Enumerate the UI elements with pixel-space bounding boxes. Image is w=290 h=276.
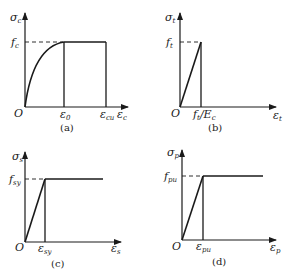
ft-over-ec-label: ft/Ec	[192, 108, 216, 122]
linear-rise	[180, 42, 201, 107]
y-axis-label: σt	[165, 11, 176, 25]
y-axis-label: σp	[167, 146, 180, 160]
fc-label: fc	[10, 36, 19, 50]
panel-c-steel-bar: σs fsy O εsy εs (c)	[8, 150, 121, 269]
origin-label: O	[14, 107, 23, 120]
x-axis-label: εp	[270, 241, 281, 255]
origin-label: O	[15, 241, 24, 254]
linear-rise	[25, 179, 45, 242]
fsy-label: fsy	[8, 173, 22, 187]
epscu-label: εcu	[100, 108, 115, 122]
caption-b: (b)	[208, 122, 222, 133]
x-axis-label: εt	[273, 109, 282, 123]
ft-label: ft	[165, 36, 173, 50]
eps0-label: ε0	[60, 108, 71, 122]
panel-b-concrete-tension: σt ft O ft/Ec εt (b)	[165, 11, 282, 133]
linear-rise	[182, 176, 203, 240]
stress-strain-diagrams: σc fc O ε0 εcu εc (a) σt ft O ft/Ec εt (…	[0, 0, 290, 276]
fpu-label: fpu	[163, 170, 178, 184]
caption-d: (d)	[212, 256, 226, 267]
origin-label: O	[172, 240, 181, 253]
parabolic-curve	[25, 42, 64, 107]
panel-a-concrete-compression: σc fc O ε0 εcu εc (a)	[10, 11, 128, 133]
caption-c: (c)	[51, 258, 65, 269]
caption-a: (a)	[60, 122, 74, 133]
y-axis-label: σc	[10, 11, 22, 25]
origin-label: O	[171, 107, 180, 120]
epspu-label: εpu	[196, 240, 211, 254]
y-axis-label: σs	[12, 150, 24, 164]
x-axis-label: εc	[117, 108, 127, 122]
x-axis-label: εs	[111, 242, 121, 256]
panel-d-prestressing-tendon: σp fpu O εpu εp (d)	[163, 146, 281, 267]
epssy-label: εsy	[38, 242, 52, 256]
